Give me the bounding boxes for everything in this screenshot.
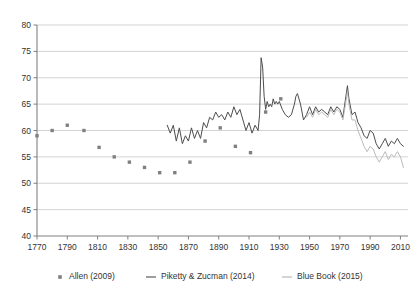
x-tick-label-1910: 1910 bbox=[240, 242, 259, 252]
x-tick-label-1930: 1930 bbox=[270, 242, 289, 252]
scatter-point bbox=[113, 155, 116, 158]
series-2 bbox=[307, 91, 404, 167]
x-tick-label-1790: 1790 bbox=[58, 242, 77, 252]
scatter-point bbox=[128, 160, 131, 163]
y-tick-label-50: 50 bbox=[22, 178, 32, 188]
legend-label-2: Blue Book (2015) bbox=[297, 271, 363, 281]
y-tick-label-40: 40 bbox=[22, 231, 32, 241]
y-tick-label-55: 55 bbox=[22, 152, 32, 162]
scatter-point bbox=[50, 129, 53, 132]
y-tick-label-70: 70 bbox=[22, 73, 32, 83]
y-axis-tick-labels: 404550556065707580 bbox=[22, 20, 32, 241]
y-tick-label-65: 65 bbox=[22, 99, 32, 109]
series-1 bbox=[167, 58, 403, 149]
scatter-point bbox=[203, 139, 206, 142]
x-tick-label-1990: 1990 bbox=[361, 242, 380, 252]
scatter-point bbox=[66, 124, 69, 127]
y-tick-label-60: 60 bbox=[22, 126, 32, 136]
scatter-point bbox=[264, 110, 267, 113]
scatter-point bbox=[158, 171, 161, 174]
scatter-point bbox=[143, 166, 146, 169]
x-tick-label-1970: 1970 bbox=[330, 242, 349, 252]
chart-svg: 404550556065707580 177017901810183018501… bbox=[0, 0, 416, 294]
x-tick-label-1850: 1850 bbox=[149, 242, 168, 252]
x-tick-label-1770: 1770 bbox=[28, 242, 47, 252]
axes bbox=[34, 25, 409, 240]
gridlines bbox=[37, 25, 408, 210]
scatter-point bbox=[188, 160, 191, 163]
y-tick-label-75: 75 bbox=[22, 46, 32, 56]
x-tick-label-1830: 1830 bbox=[118, 242, 137, 252]
chart-legend: Allen (2009)Piketty & Zucman (2014)Blue … bbox=[58, 271, 363, 281]
y-tick-label-80: 80 bbox=[22, 20, 32, 30]
x-tick-label-2010: 2010 bbox=[391, 242, 410, 252]
scatter-point bbox=[279, 97, 282, 100]
x-tick-label-1950: 1950 bbox=[300, 242, 319, 252]
x-tick-label-1870: 1870 bbox=[179, 242, 198, 252]
y-tick-label-45: 45 bbox=[22, 205, 32, 215]
line-path bbox=[307, 91, 404, 167]
scatter-point bbox=[82, 129, 85, 132]
scatter-point bbox=[219, 126, 222, 129]
x-tick-label-1890: 1890 bbox=[209, 242, 228, 252]
legend-label-0: Allen (2009) bbox=[69, 271, 115, 281]
legend-marker-square bbox=[58, 275, 62, 279]
x-axis-tick-labels: 1770179018101830185018701890191019301950… bbox=[28, 242, 411, 252]
series-0 bbox=[35, 97, 282, 174]
x-tick-label-1810: 1810 bbox=[88, 242, 107, 252]
legend-label-1: Piketty & Zucman (2014) bbox=[161, 271, 255, 281]
scatter-point bbox=[249, 151, 252, 154]
line-path bbox=[167, 58, 403, 149]
scatter-point bbox=[234, 145, 237, 148]
scatter-point bbox=[35, 134, 38, 137]
chart-container: 404550556065707580 177017901810183018501… bbox=[0, 0, 416, 294]
scatter-point bbox=[173, 171, 176, 174]
scatter-point bbox=[97, 146, 100, 149]
